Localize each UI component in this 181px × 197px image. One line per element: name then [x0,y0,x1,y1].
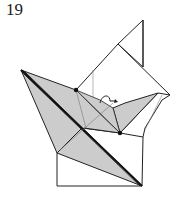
origami-diagram [0,0,181,197]
reference-point-lower [118,131,122,135]
reference-point-upper [74,88,78,92]
